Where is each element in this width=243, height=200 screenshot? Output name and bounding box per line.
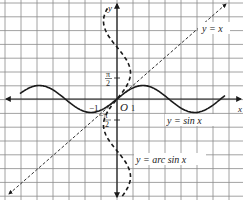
tick-label-pi-half-num: π (106, 70, 110, 79)
tick-label-neg-one: −1 (89, 103, 99, 113)
graph-sin-arcsin: y x O −1 1 π 2 −π 2 y = x y = sin x y = … (0, 0, 243, 200)
y-axis-label: y (107, 3, 112, 13)
label-y-equals-sin-x: y = sin x (166, 115, 202, 126)
label-y-equals-x: y = x (201, 23, 223, 34)
tick-label-pi-half-den: 2 (106, 79, 110, 88)
tick-label-one: 1 (131, 104, 135, 113)
tick-label-neg-pi-half-den: 2 (105, 120, 109, 129)
x-axis-label: x (237, 104, 242, 114)
origin-label: O (120, 101, 128, 113)
label-y-equals-arcsin-x: y = arc sin x (135, 154, 187, 165)
tick-label-neg-pi-half-num: −π (99, 111, 108, 120)
